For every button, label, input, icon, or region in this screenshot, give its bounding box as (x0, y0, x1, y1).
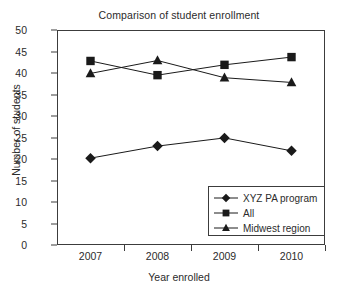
data-point (152, 141, 163, 152)
series-layer (0, 0, 358, 294)
legend-item[interactable]: All (213, 205, 254, 221)
chart-legend: XYZ PA programAllMidwest region (208, 186, 325, 236)
data-point (153, 71, 161, 79)
data-point (85, 153, 96, 164)
series-diamond (85, 133, 297, 164)
series-square (86, 53, 295, 79)
legend-label: All (243, 208, 254, 219)
legend-item[interactable]: XYZ PA program (213, 190, 317, 206)
data-point (86, 57, 94, 65)
legend-marker-square-icon (213, 207, 239, 219)
data-point (153, 55, 163, 64)
legend-item[interactable]: Midwest region (213, 220, 310, 236)
legend-marker-triangle-icon (213, 222, 239, 234)
data-point (219, 133, 230, 144)
series-line (91, 61, 292, 83)
data-point (220, 61, 228, 69)
chart-container: Comparison of student enrollment Number … (0, 0, 358, 294)
series-line (91, 57, 292, 75)
data-point (287, 53, 295, 61)
legend-marker-diamond-icon (213, 192, 239, 204)
data-point (286, 146, 297, 157)
legend-label: XYZ PA program (243, 193, 317, 204)
legend-label: Midwest region (243, 223, 310, 234)
series-line (91, 138, 292, 158)
